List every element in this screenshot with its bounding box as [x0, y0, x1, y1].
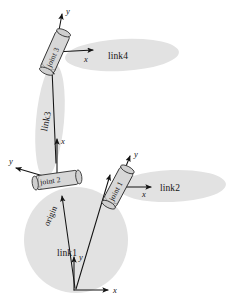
- joint2-y-axis-label: y: [8, 156, 13, 166]
- link1-label: link1: [57, 248, 77, 258]
- joint1-x-axis-label: x: [141, 189, 146, 199]
- diagram-canvas: x y x y x y x y: [0, 0, 238, 305]
- base-y-axis-label: y: [78, 252, 83, 262]
- joint3-cylinder[interactable]: joint 3: [38, 27, 71, 77]
- joint3-x-axis-label: x: [83, 54, 88, 64]
- base-x-axis-label: x: [112, 285, 117, 295]
- joint3-y-axis-label: y: [65, 6, 70, 16]
- link4-label: link4: [108, 51, 128, 61]
- robot-kinematic-diagram: x y x y x y x y: [0, 0, 238, 305]
- link-shapes-group: [24, 36, 227, 293]
- joint2-x-axis-label: x: [60, 136, 65, 146]
- link2-label: link2: [160, 183, 180, 193]
- joint1-y-axis-label: y: [133, 149, 138, 159]
